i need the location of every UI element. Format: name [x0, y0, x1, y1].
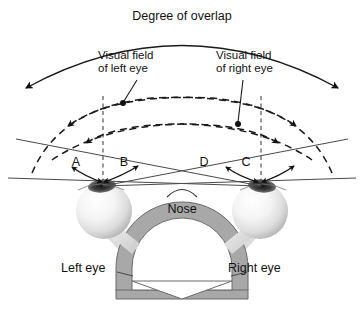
visual-field-right-label-line2: of right eye: [216, 62, 273, 74]
visual-field-boundary-lines: [8, 139, 356, 186]
left-label-leader-line: [124, 80, 137, 101]
head-outline-top-view: [116, 202, 248, 299]
right-label-leader-line: [238, 80, 243, 122]
angle-label-D: D: [199, 155, 208, 169]
callout-leaders: [120, 80, 243, 127]
right-eye-label: Right eye: [228, 261, 281, 275]
degree-of-overlap-arc: [26, 46, 338, 89]
visual-field-left-label-line2: of left eye: [98, 62, 148, 74]
angle-label-A: A: [72, 155, 81, 169]
visual-field-overlap-diagram: Degree of overlap Visual field of left e…: [0, 0, 364, 309]
left-eye-label: Left eye: [61, 261, 106, 275]
right-label-leader-dot: [235, 121, 241, 127]
angle-arc-C: [262, 166, 294, 182]
visual-field-right-label-line1: Visual field: [216, 49, 271, 61]
angle-label-B: B: [120, 155, 128, 169]
diagram-canvas: Degree of overlap Visual field of left e…: [0, 0, 364, 309]
nose-arc: [167, 190, 197, 198]
right-eye-graphic: [224, 178, 288, 254]
left-eye-graphic: [76, 178, 140, 254]
left-label-leader-dot: [120, 100, 126, 106]
visual-field-left-label-line1: Visual field: [98, 49, 153, 61]
angle-label-C: C: [241, 155, 250, 169]
degree-of-overlap-label: Degree of overlap: [132, 9, 231, 23]
nose-label: Nose: [167, 202, 196, 216]
